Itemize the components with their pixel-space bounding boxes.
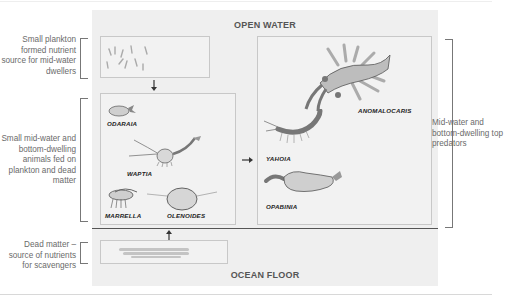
plankton-icon — [101, 37, 209, 77]
annotation-small-animals: Small mid-water and bottom-dwelling anim… — [0, 134, 76, 187]
annotation-predators: Mid-water and bottom-dwelling top predat… — [432, 118, 508, 150]
ocean-floor-label: OCEAN FLOOR — [92, 270, 438, 280]
species-label-olenoides: OLENOIDES — [167, 212, 205, 219]
open-water-label: OPEN WATER — [92, 20, 438, 30]
top-rule — [0, 1, 492, 2]
opabinia-icon — [262, 165, 348, 199]
annotation-plankton: Small plankton formed nutrient source fo… — [0, 35, 76, 77]
species-label-odaraia: ODARAIA — [107, 120, 137, 127]
arrow-right-icon — [242, 155, 254, 165]
arrow-down-icon — [149, 80, 159, 92]
species-label-opabinia: OPABINIA — [266, 203, 297, 210]
species-label-marrella: MARRELLA — [105, 212, 141, 219]
predators-box: ANOMALOCARIS YAHOIA OPABINIA — [257, 36, 432, 225]
olenoides-icon — [147, 186, 217, 212]
bracket-plankton — [80, 38, 88, 79]
species-label-yahoia: YAHOIA — [266, 155, 291, 162]
bracket-dead-matter — [80, 242, 88, 264]
yahoia-icon — [264, 109, 326, 149]
ocean-floor-line — [92, 228, 438, 229]
species-label-waptia: WAPTIA — [127, 170, 152, 177]
marrella-icon — [105, 186, 141, 210]
small-animals-box: ODARAIA WAPTIA MARRELLA OLENOIDES — [100, 93, 236, 225]
annotation-dead-matter: Dead matter – source of nutrients for sc… — [0, 240, 76, 272]
plankton-box — [100, 36, 210, 78]
bracket-small-animals — [80, 98, 88, 222]
waptia-icon — [129, 132, 209, 170]
odaraia-icon — [107, 102, 137, 118]
sediment-icon — [101, 241, 227, 263]
dead-matter-box — [100, 240, 228, 264]
anomalocaris-icon — [298, 43, 408, 115]
species-label-anomalocaris: ANOMALOCARIS — [358, 107, 412, 114]
bottom-rule — [0, 294, 492, 295]
